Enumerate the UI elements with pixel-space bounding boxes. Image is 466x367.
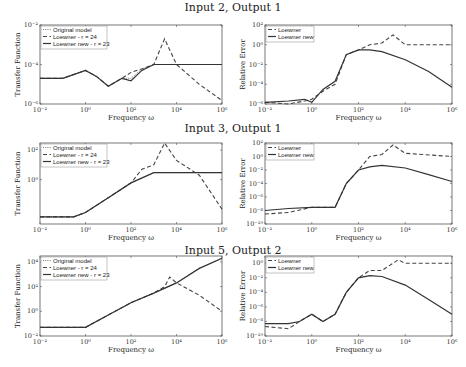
x-tick-label: 10⁴	[171, 338, 182, 346]
y-tick-label: 10⁰	[252, 41, 263, 49]
x-tick-label: 10⁶	[217, 226, 228, 234]
y-tick-label: 10⁻²	[24, 21, 39, 29]
legend-entry: Loewner new	[278, 265, 314, 271]
legend-entry: Loewner new	[278, 152, 314, 158]
x-axis-label: Frequency ω	[108, 234, 154, 242]
legend-entry: Loewner	[278, 27, 301, 33]
y-axis-label: Relative Error	[239, 39, 247, 90]
y-tick-label: 10⁻¹⁰	[246, 332, 263, 340]
y-axis-label: Transfer Function	[14, 32, 22, 97]
x-tick-label: 10⁶	[217, 106, 228, 114]
legend-entry: Loewner new - r = 23	[53, 159, 110, 165]
legend-entry: Loewner	[278, 145, 301, 151]
legend-entry: Original model	[53, 145, 92, 151]
legend-entry: Loewner - r = 24	[53, 34, 98, 40]
x-tick-label: 10⁰	[306, 338, 317, 346]
chart-panel-3: 10⁻²10⁰10²10⁴10⁶10⁰10²Frequency ωTransfe…	[14, 143, 228, 242]
legend-entry: Loewner new - r = 23	[53, 41, 110, 47]
legend-entry: Loewner	[278, 258, 301, 264]
x-tick-label: 10⁴	[400, 338, 411, 346]
legend: LoewnerLoewner new	[266, 144, 314, 160]
y-tick-label: 10⁴	[27, 258, 38, 266]
x-axis-label: Frequency ω	[336, 346, 382, 354]
x-tick-label: 10⁰	[306, 106, 317, 114]
x-tick-label: 10⁶	[447, 338, 458, 346]
x-tick-label: 10²	[126, 226, 137, 234]
y-tick-label: 10⁻⁸	[249, 207, 264, 215]
legend: Original modelLoewner - r = 24Loewner ne…	[41, 144, 110, 167]
y-tick-label: 10⁰	[252, 259, 263, 267]
x-axis-label: Frequency ω	[108, 114, 154, 122]
legend: Original modelLoewner - r = 24Loewner ne…	[41, 26, 110, 49]
chart-panel-6: 10⁻²10⁰10²10⁴10⁶10⁻¹⁰10⁻⁸10⁻⁶10⁻⁴10⁻²10⁰…	[239, 256, 458, 354]
y-tick-label: 10⁻⁶	[24, 100, 39, 108]
legend: LoewnerLoewner new	[266, 26, 314, 42]
y-axis-label: Relative Error	[239, 270, 247, 321]
x-tick-label: 10⁰	[306, 226, 317, 234]
y-tick-label: 10²	[252, 21, 263, 29]
y-tick-label: 10⁻⁶	[249, 303, 264, 311]
legend-entry: Loewner - r = 24	[53, 152, 98, 158]
y-tick-label: 10⁻⁴	[249, 288, 264, 296]
legend: LoewnerLoewner new	[266, 257, 314, 273]
figure-canvas: 10⁻²10⁰10²10⁴10⁶10⁻⁶10⁻⁴10⁻²Frequency ωT…	[0, 0, 466, 367]
x-axis-label: Frequency ω	[336, 114, 382, 122]
x-tick-label: 10⁶	[217, 338, 228, 346]
x-tick-label: 10⁴	[171, 226, 182, 234]
y-tick-label: 10²	[27, 146, 38, 154]
x-tick-label: 10⁶	[447, 226, 458, 234]
y-tick-label: 10²	[27, 283, 38, 291]
legend-entry: Loewner - r = 24	[53, 265, 98, 271]
x-tick-label: 10²	[353, 226, 364, 234]
chart-panel-5: 10⁻²10⁰10²10⁴10⁶10⁻²10⁰10²10⁴Frequency ω…	[14, 256, 228, 354]
y-tick-label: 10⁻⁴	[24, 61, 39, 69]
y-axis-label: Transfer Function	[14, 263, 22, 328]
y-tick-label: 10⁻⁶	[249, 193, 264, 201]
y-tick-label: 10⁰	[252, 153, 263, 161]
x-tick-label: 10⁴	[171, 106, 182, 114]
y-tick-label: 10⁻⁴	[249, 180, 264, 188]
x-axis-label: Frequency ω	[108, 346, 154, 354]
y-tick-label: 10²	[252, 139, 263, 147]
chart-panel-2: 10⁻²10⁰10²10⁴10⁶10⁻⁶10⁻⁴10⁻²10⁰10²Freque…	[239, 21, 458, 122]
x-tick-label: 10⁴	[400, 226, 411, 234]
legend-entry: Loewner new - r = 23	[53, 272, 110, 278]
x-tick-label: 10⁰	[80, 106, 91, 114]
y-axis-label: Transfer Function	[14, 151, 22, 216]
y-tick-label: 10⁰	[27, 307, 38, 315]
y-tick-label: 10⁻⁸	[249, 317, 264, 325]
legend: Original modelLoewner - r = 24Loewner ne…	[41, 257, 110, 280]
y-tick-label: 10⁻⁶	[249, 100, 264, 108]
x-tick-label: 10⁶	[447, 106, 458, 114]
x-axis-label: Frequency ω	[336, 234, 382, 242]
x-tick-label: 10⁴	[400, 106, 411, 114]
chart-panel-1: 10⁻²10⁰10²10⁴10⁶10⁻⁶10⁻⁴10⁻²Frequency ωT…	[14, 21, 228, 122]
x-tick-label: 10²	[126, 338, 137, 346]
legend-entry: Loewner new	[278, 34, 314, 40]
y-tick-label: 10⁰	[27, 176, 38, 184]
y-tick-label: 10⁻²	[249, 61, 264, 69]
y-tick-label: 10⁻²	[24, 332, 39, 340]
x-tick-label: 10²	[126, 106, 137, 114]
y-tick-label: 10⁻²	[249, 274, 264, 282]
x-tick-label: 10⁰	[80, 226, 91, 234]
x-tick-label: 10⁰	[80, 338, 91, 346]
y-tick-label: 10⁻²	[249, 166, 264, 174]
x-tick-label: 10²	[353, 338, 364, 346]
y-tick-label: 10⁻⁴	[249, 80, 264, 88]
legend-entry: Original model	[53, 258, 92, 264]
y-axis-label: Relative Error	[239, 158, 247, 209]
y-tick-label: 10⁻¹⁰	[246, 220, 263, 228]
chart-panel-4: 10⁻²10⁰10²10⁴10⁶10⁻¹⁰10⁻⁸10⁻⁶10⁻⁴10⁻²10⁰…	[239, 139, 458, 242]
legend-entry: Original model	[53, 27, 92, 33]
x-tick-label: 10⁻²	[33, 226, 48, 234]
x-tick-label: 10²	[353, 106, 364, 114]
